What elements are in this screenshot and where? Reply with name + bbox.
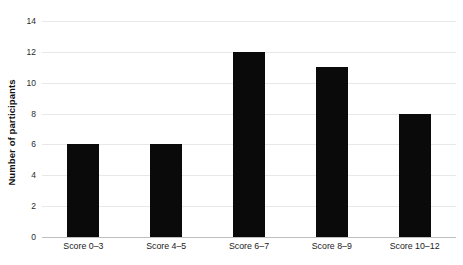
x-tick-label: Score 10–12 bbox=[390, 241, 440, 251]
bar bbox=[150, 144, 182, 237]
x-tick-label: Score 6–7 bbox=[229, 241, 269, 251]
plot-area: 02468101214 bbox=[42, 21, 456, 237]
bar bbox=[67, 144, 99, 237]
x-tick-label: Score 4–5 bbox=[146, 241, 186, 251]
bar bbox=[399, 114, 431, 237]
y-tick-label-0: 0 bbox=[31, 232, 36, 242]
bar bbox=[233, 52, 265, 237]
y-tick-label-10: 10 bbox=[27, 78, 36, 88]
y-tick-label-8: 8 bbox=[31, 109, 36, 119]
y-tick-label-6: 6 bbox=[31, 139, 36, 149]
bars bbox=[42, 21, 456, 237]
y-tick-label-2: 2 bbox=[31, 201, 36, 211]
y-tick-label-12: 12 bbox=[27, 47, 36, 57]
x-tick-label: Score 8–9 bbox=[312, 241, 352, 251]
y-tick-label-4: 4 bbox=[31, 170, 36, 180]
x-axis-labels: Score 0–3Score 4–5Score 6–7Score 8–9Scor… bbox=[42, 241, 456, 259]
y-tick-label-14: 14 bbox=[27, 16, 36, 26]
x-tick-label: Score 0–3 bbox=[63, 241, 103, 251]
y-axis-title: Number of participants bbox=[0, 0, 22, 265]
axis-line-baseline: 0 bbox=[42, 237, 456, 238]
bar-chart: Number of participants 02468101214 Score… bbox=[0, 0, 463, 265]
bar bbox=[316, 67, 348, 237]
